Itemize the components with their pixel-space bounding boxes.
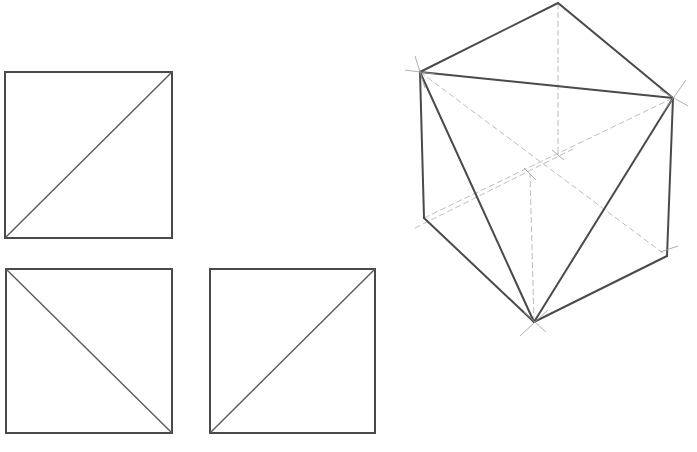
cube-bottom-edges — [424, 218, 667, 322]
cube-right-edge — [667, 98, 673, 256]
cube-front-left-diagonal — [420, 72, 534, 322]
construction-line — [415, 148, 575, 228]
vertex-marks — [405, 56, 688, 336]
construction-line — [420, 72, 667, 256]
construction-line — [530, 174, 534, 322]
drawing-canvas — [0, 0, 697, 452]
cube-top-edges — [420, 3, 673, 98]
square-top-left — [5, 72, 172, 238]
square-bottom-right — [210, 269, 375, 433]
cube-sketch — [405, 3, 688, 336]
square-diagonal — [210, 269, 375, 433]
cube-top-diagonal — [420, 72, 673, 98]
square-diagonal — [5, 72, 172, 238]
square-bottom-left — [6, 269, 172, 433]
square-diagonal — [6, 269, 172, 433]
cube-left-edge — [420, 72, 424, 218]
